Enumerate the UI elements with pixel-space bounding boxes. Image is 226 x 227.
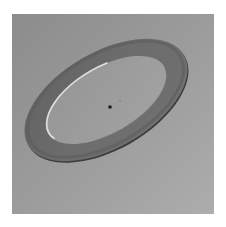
center-faint-mark — [119, 100, 121, 102]
center-dot — [108, 105, 112, 109]
rendered-scene — [0, 0, 226, 227]
